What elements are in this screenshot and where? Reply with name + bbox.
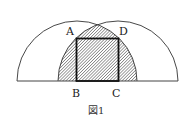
figure-1-diagram: A D B C 図1 xyxy=(0,0,189,122)
figure-caption: 図1 xyxy=(88,105,104,116)
label-c: C xyxy=(112,87,120,100)
label-d: D xyxy=(119,25,128,38)
label-a: A xyxy=(65,25,75,38)
label-b: B xyxy=(72,87,80,100)
